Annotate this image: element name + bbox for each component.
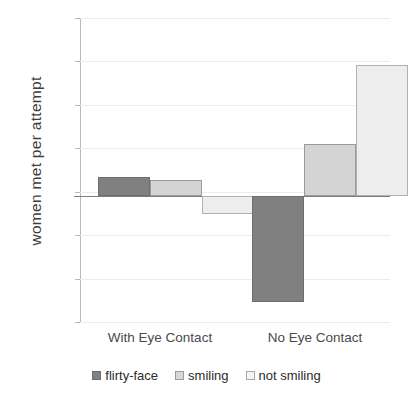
legend-swatch-icon-smiling [175,371,184,380]
gridline-0.3 [80,322,390,323]
bar-no-eye-contact-flirty-face [252,196,304,302]
ytick-0.4 [75,279,80,280]
ytick-0.9 [75,61,80,62]
gridline-1.0 [80,18,390,19]
ytick-0.6 [75,192,80,193]
y-axis-title: women met per attempt [27,41,45,281]
plot-area: 1.0 0.9 0.8 0.7 0.6 0.5 0.4 0.3 With Eye… [80,18,390,322]
y-axis-line [80,18,81,322]
ytick-0.8 [75,105,80,106]
bar-chart: women met per attempt 1.0 0.9 0.8 0.7 0.… [0,0,413,404]
gridline-0.9 [80,61,390,62]
legend-swatch-icon-flirty-face [92,371,101,380]
ytick-0.7 [75,148,80,149]
legend-label-not-smiling: not smiling [259,368,321,383]
gridline-0.4 [80,279,390,280]
ytick-0.3 [75,322,80,323]
legend-swatch-icon-not-smiling [246,371,255,380]
legend-item-smiling: smiling [175,368,228,383]
bar-no-eye-contact-smiling [304,144,356,196]
legend: flirty-face smiling not smiling [0,368,413,383]
legend-label-smiling: smiling [188,368,228,383]
bar-with-eye-contact-not-smiling [202,196,254,214]
xtick-label-with-eye-contact: With Eye Contact [85,330,235,345]
bar-with-eye-contact-flirty-face [98,177,150,197]
xtick-label-no-eye-contact: No Eye Contact [240,330,390,345]
gridline-0.8 [80,105,390,106]
ytick-1.0 [75,18,80,19]
ytick-0.5 [75,235,80,236]
legend-label-flirty-face: flirty-face [105,368,158,383]
bar-with-eye-contact-smiling [150,180,202,197]
legend-item-flirty-face: flirty-face [92,368,158,383]
bar-no-eye-contact-not-smiling [356,65,408,196]
legend-item-not-smiling: not smiling [246,368,321,383]
gridline-0.5 [80,235,390,236]
